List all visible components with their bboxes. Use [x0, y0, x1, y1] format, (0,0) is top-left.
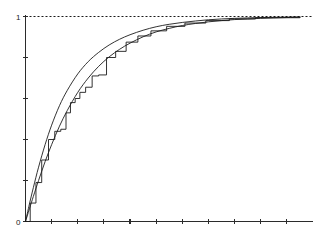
series-theoretical-cdf-a — [26, 17, 300, 222]
origin-tick-label: 0 — [16, 218, 21, 227]
chart-canvas: 1 0 — [0, 0, 320, 236]
data-series-group — [26, 17, 300, 222]
chart-container: 1 0 — [0, 0, 320, 236]
x-axis-group — [26, 219, 314, 224]
y-max-tick-label: 1 — [16, 13, 21, 22]
series-empirical-step-cdf — [26, 17, 300, 222]
y-axis-group — [23, 15, 28, 222]
series-theoretical-cdf-b — [26, 17, 300, 221]
